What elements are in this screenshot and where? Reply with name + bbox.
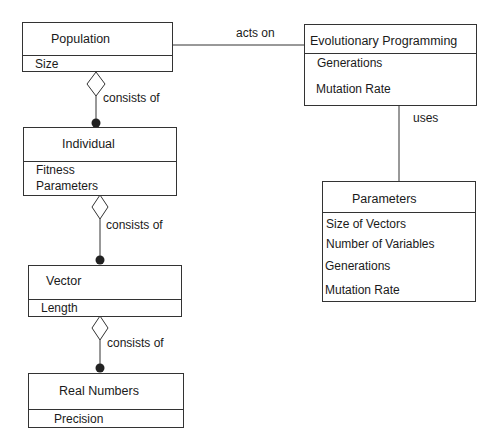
class-real-numbers: Real Numbers Precision: [28, 373, 184, 428]
class-name: Evolutionary Programming: [310, 34, 476, 48]
relation-label-consists-of: consists of: [107, 336, 164, 350]
relation-label-consists-of: consists of: [103, 91, 160, 105]
divider: [24, 161, 176, 162]
association-end-dot-icon: [96, 256, 105, 265]
class-attribute: Length: [41, 301, 78, 315]
class-individual: Individual Fitness Parameters: [23, 127, 177, 196]
relation-label-acts-on: acts on: [236, 26, 275, 40]
class-name: Real Numbers: [59, 384, 183, 398]
class-attribute: Fitness: [36, 163, 75, 177]
divider: [29, 409, 183, 410]
class-name: Parameters: [352, 192, 475, 206]
class-attribute: Precision: [54, 412, 103, 426]
class-vector: Vector Length: [28, 265, 182, 317]
class-name: Vector: [46, 274, 181, 288]
relation-label-consists-of: consists of: [106, 218, 163, 232]
aggregation-diamond-icon: [92, 195, 108, 219]
class-attribute: Number of Variables: [326, 237, 435, 251]
class-population: Population Size: [22, 22, 173, 72]
divider: [305, 53, 476, 54]
class-attribute: Parameters: [36, 179, 98, 193]
class-attribute: Mutation Rate: [325, 283, 400, 297]
class-attribute: Generations: [317, 56, 382, 70]
divider: [29, 299, 181, 300]
divider: [323, 212, 475, 213]
aggregation-diamond-icon: [92, 316, 108, 340]
class-name: Individual: [62, 137, 176, 151]
class-attribute: Size of Vectors: [326, 217, 406, 231]
divider: [23, 55, 172, 56]
class-attribute: Mutation Rate: [316, 82, 391, 96]
relation-label-uses: uses: [413, 111, 438, 125]
class-attribute: Size: [35, 57, 58, 71]
association-end-dot-icon: [96, 364, 105, 373]
class-attribute: Generations: [325, 259, 390, 273]
class-name: Population: [51, 32, 172, 46]
class-parameters: Parameters Size of Vectors Number of Var…: [322, 181, 476, 302]
class-evolutionary-programming: Evolutionary Programming Generations Mut…: [304, 24, 477, 106]
